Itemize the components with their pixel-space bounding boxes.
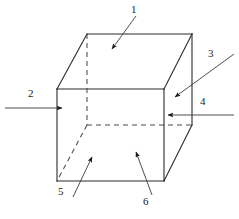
cube-hidden-edges [57,34,192,181]
hidden-edge-bottom-left-diagonal [57,125,87,181]
edge-top-left-diagonal [57,34,87,89]
callout-label-3: 3 [208,48,214,59]
callout-label-4: 4 [200,96,206,107]
edge-bottom-right-diagonal [164,125,192,181]
callout-label-1: 1 [131,4,137,15]
leader-line-6 [136,152,152,195]
leader-line-3 [175,54,234,97]
callout-label-6: 6 [143,196,149,207]
edge-top-right-diagonal [164,34,192,89]
cube-diagram [0,0,239,219]
callout-label-2: 2 [28,88,34,99]
cube-solid-edges [57,34,192,181]
leader-line-1 [112,16,136,49]
callout-label-5: 5 [58,186,64,197]
figure-canvas: 1 2 3 4 5 6 [0,0,239,219]
leader-line-5 [73,157,92,197]
